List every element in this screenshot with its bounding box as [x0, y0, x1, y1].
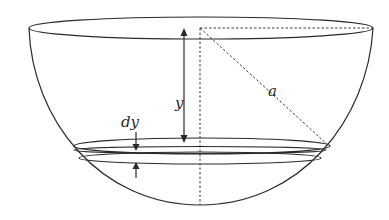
radius-a-dashed — [200, 28, 328, 145]
radius-label: a — [268, 82, 277, 100]
thickness-label: dy — [121, 113, 140, 131]
arrowhead-up-icon — [181, 28, 188, 36]
depth-label: y — [174, 94, 184, 112]
depth-arrow — [181, 28, 188, 143]
hemisphere-diagram: y dy a — [0, 0, 389, 220]
arrowhead-down-icon — [181, 135, 188, 143]
bowl-outline — [29, 28, 373, 205]
